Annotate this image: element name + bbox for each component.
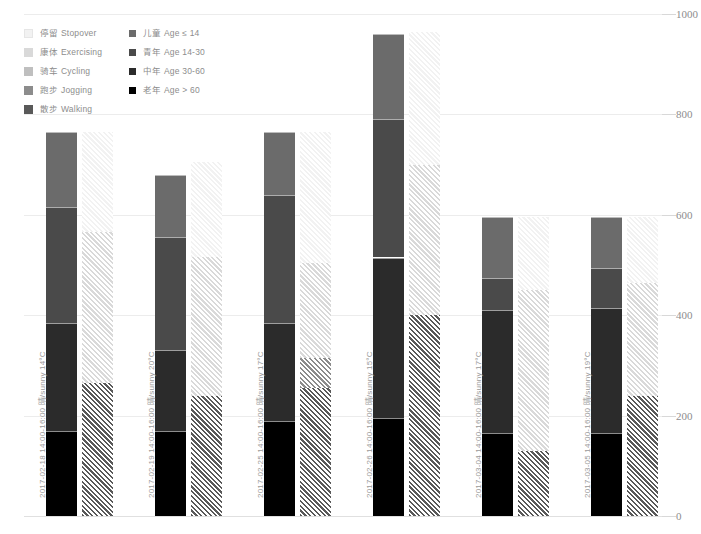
bar-segment[interactable] bbox=[155, 237, 186, 350]
y-axis-tick-label: 600 bbox=[676, 209, 693, 221]
y-axis-tick bbox=[662, 516, 676, 517]
bar-age-stack[interactable] bbox=[264, 132, 295, 516]
bar-segment[interactable] bbox=[591, 268, 622, 308]
bar-segment[interactable] bbox=[264, 195, 295, 323]
y-axis-tick bbox=[662, 215, 676, 216]
bar-segment[interactable] bbox=[591, 217, 622, 267]
bar-segment[interactable] bbox=[46, 323, 77, 431]
bar-segment[interactable] bbox=[591, 433, 622, 516]
stacked-bar-chart: 停留 Stopover康体 Exercising骑车 Cycling跑步 Jog… bbox=[0, 0, 701, 534]
y-axis-tick bbox=[662, 114, 676, 115]
bar-segment[interactable] bbox=[155, 431, 186, 516]
bar-segment[interactable] bbox=[300, 132, 331, 263]
bar-segment[interactable] bbox=[300, 263, 331, 358]
y-axis-tick-label: 800 bbox=[676, 108, 693, 120]
bar-segment[interactable] bbox=[482, 278, 513, 311]
bar-segment[interactable] bbox=[46, 431, 77, 516]
bar-segment[interactable] bbox=[409, 315, 440, 516]
plot-area: 100080060040020002017-02-18 14:00-16:00 … bbox=[24, 14, 662, 516]
bar-segment[interactable] bbox=[627, 217, 658, 282]
bar-segment[interactable] bbox=[191, 396, 222, 516]
y-axis-tick-label: 400 bbox=[676, 309, 693, 321]
bar-segment[interactable] bbox=[191, 257, 222, 395]
bar-segment[interactable] bbox=[155, 175, 186, 238]
bar-segment[interactable] bbox=[373, 119, 404, 257]
bar-segment[interactable] bbox=[518, 290, 549, 451]
bar-activity-stack[interactable] bbox=[82, 132, 113, 516]
bar-segment[interactable] bbox=[82, 232, 113, 383]
x-axis-tick-label: 2017-03-04 14:00-16:00 晴/sunny 17°C bbox=[472, 351, 483, 498]
x-axis-tick-label: 2017-02-26 14:00-16:00 晴/sunny 15°C bbox=[363, 351, 374, 498]
gridline bbox=[24, 215, 662, 216]
gridline bbox=[24, 14, 662, 15]
bar-segment[interactable] bbox=[82, 132, 113, 232]
bar-group bbox=[264, 14, 334, 516]
bar-activity-stack[interactable] bbox=[409, 32, 440, 516]
bar-activity-stack[interactable] bbox=[627, 217, 658, 516]
bar-segment[interactable] bbox=[373, 418, 404, 516]
bar-segment[interactable] bbox=[409, 165, 440, 316]
bar-segment[interactable] bbox=[627, 396, 658, 516]
bar-segment[interactable] bbox=[300, 358, 331, 388]
bar-activity-stack[interactable] bbox=[191, 162, 222, 516]
gridline bbox=[24, 315, 662, 316]
bar-group bbox=[155, 14, 225, 516]
bar-segment[interactable] bbox=[591, 308, 622, 434]
bar-activity-stack[interactable] bbox=[300, 132, 331, 516]
y-axis-tick-label: 200 bbox=[676, 410, 693, 422]
x-axis-tick-label: 2017-02-19 14:00-16:00 晴/sunny 20°C bbox=[145, 351, 156, 498]
gridline bbox=[24, 416, 662, 417]
bar-segment[interactable] bbox=[482, 217, 513, 277]
bar-segment[interactable] bbox=[46, 207, 77, 322]
y-axis-tick bbox=[662, 315, 676, 316]
bar-group bbox=[373, 14, 443, 516]
y-axis-tick bbox=[662, 416, 676, 417]
bar-segment[interactable] bbox=[518, 217, 549, 290]
bar-segment[interactable] bbox=[264, 421, 295, 516]
bar-segment[interactable] bbox=[482, 433, 513, 516]
bar-segment[interactable] bbox=[155, 350, 186, 430]
bar-age-stack[interactable] bbox=[482, 217, 513, 516]
bar-segment[interactable] bbox=[373, 34, 404, 119]
bar-segment[interactable] bbox=[264, 323, 295, 421]
y-axis-tick-label: 1000 bbox=[676, 8, 698, 20]
bar-segment[interactable] bbox=[191, 162, 222, 257]
bar-age-stack[interactable] bbox=[46, 132, 77, 516]
x-axis-tick-label: 2017-03-05 14:00-16:00 晴/sunny 19°C bbox=[581, 351, 592, 498]
bar-segment[interactable] bbox=[482, 310, 513, 433]
bar-segment[interactable] bbox=[373, 258, 404, 419]
x-axis-tick-label: 2017-02-25 14:00-16:00 晴/sunny 17°C bbox=[254, 351, 265, 498]
y-axis-tick bbox=[662, 14, 676, 15]
bar-segment[interactable] bbox=[264, 132, 295, 195]
gridline bbox=[24, 114, 662, 115]
bar-group bbox=[46, 14, 116, 516]
bar-segment[interactable] bbox=[627, 283, 658, 396]
bar-activity-stack[interactable] bbox=[518, 217, 549, 516]
bar-segment[interactable] bbox=[82, 383, 113, 516]
bar-age-stack[interactable] bbox=[591, 217, 622, 516]
x-axis-tick-label: 2017-02-18 14:00-16:00 晴/sunny 14°C bbox=[36, 351, 47, 498]
bar-segment[interactable] bbox=[46, 132, 77, 207]
bar-age-stack[interactable] bbox=[155, 175, 186, 516]
bar-segment[interactable] bbox=[300, 388, 331, 516]
bar-age-stack[interactable] bbox=[373, 34, 404, 516]
bar-group bbox=[591, 14, 661, 516]
bar-group bbox=[482, 14, 552, 516]
x-axis-line bbox=[24, 516, 662, 517]
bar-segment[interactable] bbox=[518, 451, 549, 516]
bar-segment[interactable] bbox=[409, 32, 440, 165]
y-axis-tick-label: 0 bbox=[676, 510, 682, 522]
